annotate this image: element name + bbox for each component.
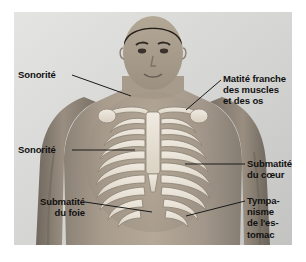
label-tympanisme-estomac: Tympa- nisme de l'es- tomac xyxy=(247,195,279,240)
label-submatite-foie: Submatité du foie xyxy=(13,196,85,218)
leader-tympanisme xyxy=(186,201,245,216)
label-matite-franche: Matité franche des muscles et des os xyxy=(223,73,286,107)
label-sonorite-lower: Sonorité xyxy=(18,144,56,155)
leader-sonorite-upper xyxy=(72,75,131,96)
anatomical-figure: Sonorité Matité franche des muscles et d… xyxy=(0,0,306,262)
leader-matite-franche xyxy=(186,80,221,110)
label-sonorite-upper: Sonorité xyxy=(18,69,56,80)
label-submatite-coeur: Submatité du cœur xyxy=(247,158,292,180)
leader-submatite-foie xyxy=(85,202,152,212)
